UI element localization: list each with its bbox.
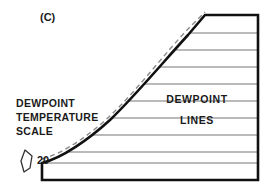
hollow-arrow-icon (21, 150, 32, 172)
scale-label-line-1: DEWPOINT (16, 97, 75, 109)
panel-label: (C) (40, 11, 56, 23)
scale-value-label: 20 (37, 154, 49, 166)
region-label-line-2: LINES (180, 114, 214, 126)
diagram-canvas: (C) DEWPOINT TEMPERATURE SCALE 20 DEWPOI… (0, 0, 275, 193)
scale-label-line-2: TEMPERATURE (16, 111, 98, 123)
scale-label-line-3: SCALE (16, 125, 53, 137)
region-label-line-1: DEWPOINT (166, 93, 227, 105)
dewpoint-temperature-scale-curve (42, 12, 205, 159)
dewpoint-diagram-figure: (C) DEWPOINT TEMPERATURE SCALE 20 DEWPOI… (0, 0, 275, 193)
